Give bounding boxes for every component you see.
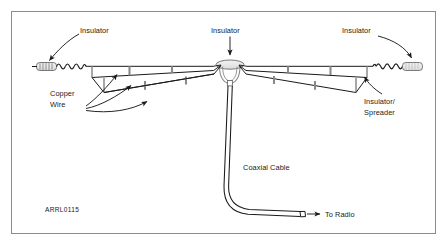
coiled-wire-left: [57, 64, 87, 69]
label-to-radio: To Radio: [325, 210, 355, 219]
arrow-to-left-end-insulator: [50, 34, 80, 61]
label-insulator-left: Insulator: [80, 26, 109, 35]
figure-id-code: ARRL0115: [45, 205, 79, 214]
spreaders-right: [274, 66, 331, 90]
spreader-left-bottom-rail: [104, 74, 214, 93]
label-insulator-spreader-line1: Insulator/: [364, 97, 395, 106]
arrow-to-right-spreader: [365, 77, 383, 94]
label-insulator-right: Insulator: [342, 26, 371, 35]
label-coaxial-cable: Coaxial Cable: [243, 163, 290, 172]
figure-border: [12, 12, 436, 234]
cable-end-connector: [300, 211, 306, 216]
end-insulator-right: [403, 63, 423, 71]
arrow-to-lower-cage-wire: [86, 102, 147, 112]
spreaders-left: [130, 66, 187, 90]
arrow-to-right-end-insulator: [378, 36, 412, 58]
label-insulator-center: Insulator: [211, 26, 240, 35]
label-copper-wire-line2: Wire: [50, 100, 65, 109]
center-insulator: [216, 60, 244, 86]
label-copper-wire-line1: Copper: [50, 89, 75, 98]
end-insulator-left: [32, 63, 57, 71]
coiled-wire-right: [373, 64, 403, 69]
arrow-to-upper-cage-wire: [86, 75, 117, 107]
label-insulator-spreader-line2: Spreader: [364, 108, 395, 117]
figure-canvas: Insulator Insulator Insulator Copper Wir…: [0, 0, 447, 246]
cage-right: [246, 66, 373, 92]
coaxial-cable: [224, 86, 300, 217]
